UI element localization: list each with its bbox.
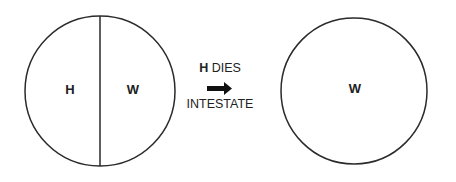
transition-line2: INTESTATE <box>187 97 254 111</box>
transition-line1-rest: DIES <box>208 61 241 75</box>
right-arrow-icon <box>207 82 232 95</box>
transition-line1: H DIES <box>199 61 241 75</box>
transition-bold-prefix: H <box>199 61 208 75</box>
before-left-label: H <box>65 82 74 97</box>
before-right-label: W <box>127 82 139 97</box>
after-label: W <box>349 81 361 96</box>
